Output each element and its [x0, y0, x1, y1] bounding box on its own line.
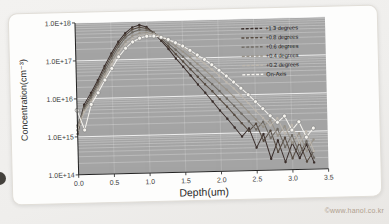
legend-label: +0.4 degrees	[266, 52, 299, 59]
x-tick-label: 0.5	[110, 179, 120, 186]
y-tick-label: 1.0E+17	[46, 57, 73, 65]
x-tick-label: 1.5	[181, 177, 191, 184]
x-tick-label: 3.0	[288, 175, 298, 182]
x-tick-label: 0.0	[74, 180, 84, 187]
watermark: ©www.hanol.co.kr	[325, 207, 384, 214]
x-tick-label: 2.0	[217, 176, 227, 183]
y-axis-title: Concentration(cm⁻³)	[18, 59, 30, 141]
legend-label: +1.3 degrees	[265, 24, 298, 31]
page-bullet-icon	[0, 172, 6, 185]
x-axis-title: Depth(um)	[179, 185, 229, 198]
legend-label: On-Axis	[266, 71, 286, 77]
x-tick-label: 1.0	[145, 178, 155, 185]
legend-label: +0.8 degrees	[265, 34, 298, 41]
y-tick-label: 1.0E+15	[47, 133, 74, 141]
figure-card: 0.00.51.01.52.02.53.03.51.0E+181.0E+171.…	[8, 5, 383, 206]
y-tick-label: 1.0E+18	[45, 20, 72, 28]
legend-label: +0.6 degrees	[266, 43, 299, 50]
page-background: 0.00.51.01.52.02.53.03.51.0E+181.0E+171.…	[0, 0, 389, 224]
x-tick-label: 2.5	[252, 175, 262, 182]
y-tick-label: 1.0E+14	[48, 171, 75, 179]
sims-depth-profile-chart: 0.00.51.01.52.02.53.03.51.0E+181.0E+171.…	[9, 6, 382, 205]
legend-label: +0.2 degrees	[266, 61, 299, 68]
x-tick-label: 3.5	[324, 174, 334, 181]
y-tick-label: 1.0E+16	[46, 95, 73, 103]
